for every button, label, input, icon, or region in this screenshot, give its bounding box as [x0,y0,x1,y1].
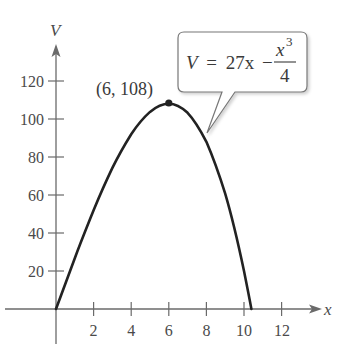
equation-term1: 27x [226,52,255,73]
max-point-marker [165,99,172,106]
x-tick-label-4: 4 [127,322,135,339]
y-tick-label-20: 20 [28,263,44,280]
x-tick-label-6: 6 [165,322,173,339]
y-axis: V 20 40 60 80 100 120 [20,21,64,344]
x-axis: x 2 4 6 8 10 12 [5,300,332,339]
equation-denominator: 4 [280,65,290,86]
y-tick-label-80: 80 [28,149,44,166]
equation-numerator-base: x [275,39,285,60]
y-tick-label-60: 60 [28,187,44,204]
equation-equals: = [206,52,217,73]
equation-numerator-exp: 3 [286,34,293,49]
x-tick-label-2: 2 [90,322,98,339]
x-tick-label-12: 12 [274,322,290,339]
x-tick-label-8: 8 [202,322,210,339]
x-axis-label: x [323,300,332,319]
volume-function-chart: x 2 4 6 8 10 12 V [0,0,341,361]
y-axis-label: V [50,21,63,40]
equation-lhs: V [186,52,200,73]
y-tick-label-120: 120 [20,73,44,90]
max-point-label: (6, 108) [96,79,153,100]
x-tick-label-10: 10 [236,322,252,339]
y-tick-label-40: 40 [28,225,44,242]
volume-curve [56,104,251,309]
y-tick-label-100: 100 [20,111,44,128]
equation-minus: − [262,52,273,73]
